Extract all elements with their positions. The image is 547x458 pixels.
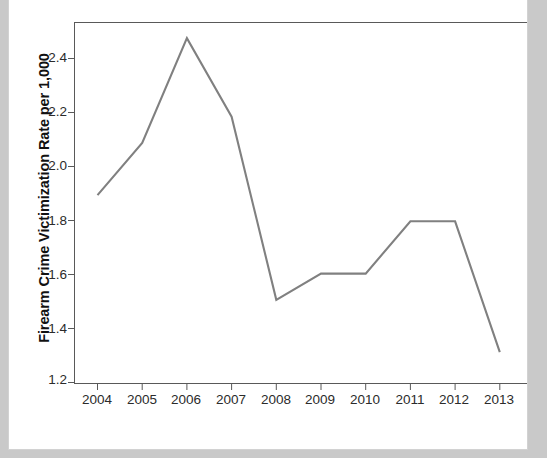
y-tick-marks xyxy=(68,59,75,383)
x-tick-marks xyxy=(98,384,500,391)
plot-area xyxy=(9,0,528,450)
figure-page: Firearm Crime Victimization Rate per 1,0… xyxy=(8,0,528,450)
plot-frame xyxy=(75,23,529,384)
data-series-line xyxy=(98,38,500,352)
chart-figure: Firearm Crime Victimization Rate per 1,0… xyxy=(9,0,528,450)
